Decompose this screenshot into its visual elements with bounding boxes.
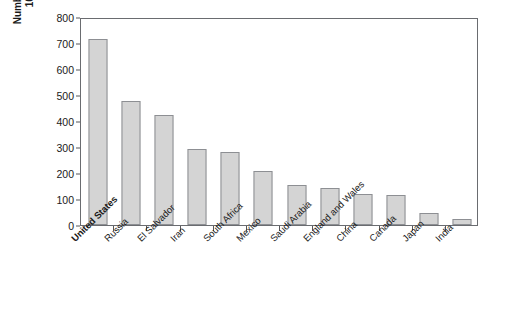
bar-slot (147, 19, 180, 225)
bar (353, 194, 372, 225)
y-axis-tick-label: 800 (56, 12, 74, 24)
y-axis-title: Number of people incarcerated per 100,00… (6, 0, 42, 54)
bar-chart-figure: Number of people incarcerated per 100,00… (0, 0, 519, 334)
bar (121, 101, 140, 225)
bar-slot (114, 19, 147, 225)
y-axis-tick-label: 600 (56, 64, 74, 76)
bars-layer (81, 19, 477, 225)
plot-area (80, 18, 478, 226)
y-axis-tick-label: 100 (56, 194, 74, 206)
y-axis-tick-label: 500 (56, 90, 74, 102)
y-axis-title-line-1: Number of people incarcerated per (12, 0, 25, 24)
y-axis-title-line-2: 100,000 national population (24, 0, 37, 7)
bar (88, 39, 107, 225)
bar-slot (413, 19, 446, 225)
y-axis-tick-label: 200 (56, 168, 74, 180)
bar-slot (380, 19, 413, 225)
bar-slot (247, 19, 280, 225)
bar (188, 149, 207, 225)
x-axis-category-labels: United StatesRussiaEl SalvadorIranSouth … (80, 232, 519, 332)
bar-slot (181, 19, 214, 225)
y-axis-tick-label: 400 (56, 116, 74, 128)
y-axis-tick-label: 300 (56, 142, 74, 154)
bar-slot (446, 19, 479, 225)
y-axis-tick-label: 700 (56, 38, 74, 50)
bar (453, 219, 472, 225)
bar-slot (214, 19, 247, 225)
bar-slot (280, 19, 313, 225)
y-axis-tick-labels: 0100200300400500600700800 (48, 18, 80, 226)
